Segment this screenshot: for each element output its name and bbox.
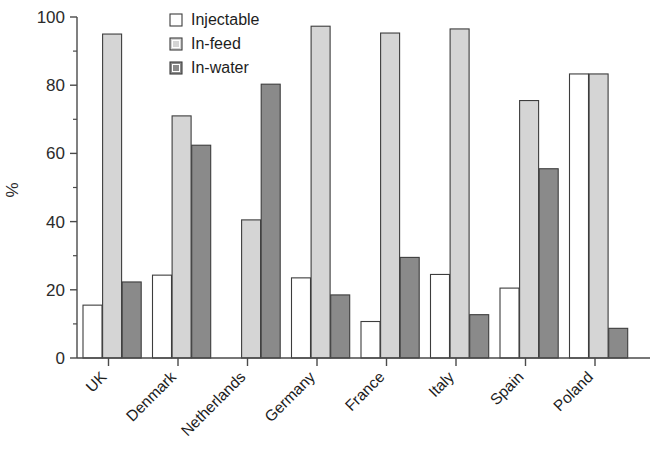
y-axis-title-text: % (3, 182, 22, 197)
bars-layer (83, 26, 628, 358)
y-axis-title: % (3, 182, 22, 197)
bar (261, 84, 280, 358)
y-tick-label: 20 (46, 281, 65, 300)
bar-group (361, 33, 419, 358)
category-label: Germany (261, 368, 318, 425)
category-labels: UKDenmarkNetherlandsGermanyFranceItalySp… (82, 368, 596, 440)
y-tick-label: 60 (46, 144, 65, 163)
bar-group (292, 26, 350, 358)
bar-group (242, 84, 281, 358)
legend-swatch (170, 14, 182, 26)
legend-swatch (170, 38, 182, 50)
y-tick-labels: 020406080100 (37, 8, 65, 368)
category-label: Denmark (123, 368, 180, 425)
bar (311, 26, 330, 358)
bar (500, 288, 519, 358)
bar (172, 116, 191, 358)
legend-swatch (170, 62, 182, 74)
bar (589, 74, 608, 358)
category-label: Italy (425, 368, 457, 400)
category-label: France (341, 368, 387, 414)
bar (570, 74, 589, 358)
bar (242, 220, 261, 358)
y-tick-label: 80 (46, 76, 65, 95)
chart-legend: InjectableIn-feedIn-water (170, 11, 260, 76)
bar (400, 257, 419, 358)
bar (103, 34, 122, 358)
bar (431, 274, 450, 358)
category-label: Poland (550, 368, 596, 414)
bar-group (570, 74, 628, 358)
bar-group (431, 29, 489, 358)
bar (361, 322, 380, 358)
bar (470, 315, 489, 358)
bar-group (83, 34, 141, 358)
y-tick-label: 40 (46, 213, 65, 232)
bar (153, 275, 172, 358)
category-label: Netherlands (178, 368, 249, 439)
bar (331, 295, 350, 358)
y-tick-label: 100 (37, 8, 65, 27)
bar (83, 305, 102, 358)
bar (292, 278, 311, 358)
bar-group (500, 101, 558, 358)
bar (450, 29, 469, 358)
bar (520, 101, 539, 358)
bar (609, 328, 628, 358)
category-label: Spain (487, 368, 527, 408)
bar (122, 282, 141, 358)
category-label: UK (82, 368, 110, 396)
legend-label: In-feed (191, 35, 241, 52)
chart-figure: 020406080100 UKDenmarkNetherlandsGermany… (0, 0, 652, 455)
bar (381, 33, 400, 358)
legend-label: Injectable (191, 11, 260, 28)
legend-label: In-water (191, 59, 249, 76)
bar (192, 145, 211, 358)
grouped-bar-chart: 020406080100 UKDenmarkNetherlandsGermany… (0, 0, 652, 455)
bar (539, 169, 558, 358)
y-tick-label: 0 (56, 349, 65, 368)
bar-group (153, 116, 211, 358)
